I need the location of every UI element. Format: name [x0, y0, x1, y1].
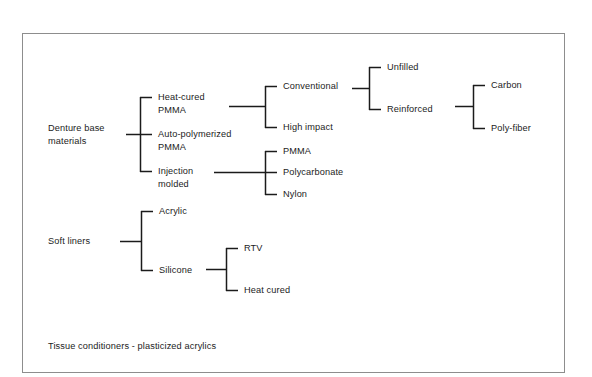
node-denture-base-materials-line1: Denture base — [48, 122, 105, 135]
node-reinforced: Reinforced — [387, 103, 433, 116]
node-injection-molded-line2: molded — [158, 178, 189, 191]
node-auto-polymerized-pmma-line1: Auto-polymerized — [158, 128, 231, 141]
node-heat-cured: Heat cured — [244, 284, 290, 297]
node-heat-cured-pmma-line1: Heat-cured — [158, 91, 205, 104]
node-injection-molded-line1: Injection — [158, 165, 193, 178]
footnote-tissue-conditioners: Tissue conditioners - plasticized acryli… — [48, 340, 216, 353]
node-heat-cured-pmma-line2: PMMA — [158, 104, 186, 117]
node-polycarbonate: Polycarbonate — [283, 166, 343, 179]
node-auto-polymerized-pmma-line2: PMMA — [158, 141, 186, 154]
node-unfilled: Unfilled — [387, 61, 419, 74]
node-pmma: PMMA — [283, 145, 311, 158]
node-carbon: Carbon — [491, 79, 522, 92]
node-nylon: Nylon — [283, 188, 307, 201]
node-soft-liners: Soft liners — [48, 235, 90, 248]
node-high-impact: High impact — [283, 121, 333, 134]
node-silicone: Silicone — [159, 264, 192, 277]
node-denture-base-materials-line2: materials — [48, 135, 86, 148]
node-conventional: Conventional — [283, 80, 338, 93]
node-rtv: RTV — [244, 242, 263, 255]
classification-diagram-figure: Denture base materials Heat-cured PMMA A… — [0, 0, 592, 377]
node-acrylic: Acrylic — [159, 205, 187, 218]
node-poly-fiber: Poly-fiber — [491, 122, 531, 135]
